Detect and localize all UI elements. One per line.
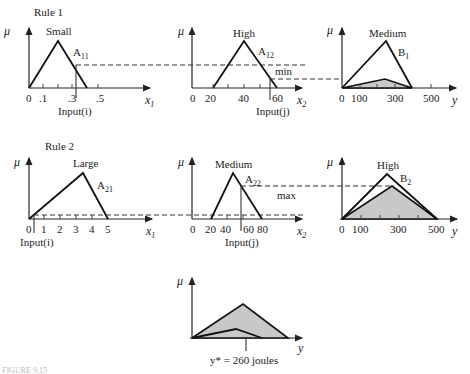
tick-label: 0 — [339, 223, 345, 235]
aggregated-area — [192, 304, 288, 338]
y-axis-label: y — [297, 341, 304, 355]
aggregated-output-panel: μ y y* = 260 joules — [176, 274, 304, 366]
mf-label-b1: B1 — [398, 46, 409, 61]
mu-label: μ — [13, 155, 20, 169]
tick-label: 20 — [205, 92, 217, 104]
tick-label: .1 — [39, 92, 47, 104]
tick-label: 60 — [272, 92, 284, 104]
rule1-consequent-panel: μ Medium B1 0 100 300 500 y — [326, 23, 458, 107]
y-axis-label: y — [451, 224, 458, 238]
mu-label: μ — [326, 155, 333, 169]
tick-label: 4 — [89, 223, 95, 235]
crisp-output-label: y* = 260 joules — [210, 354, 278, 366]
rule1-antecedent2-panel: μ High A12 0 20 40 60 Input(j) x2 min — [177, 24, 342, 118]
tick-label: 0 — [190, 92, 196, 104]
set-label-medium: Medium — [369, 27, 407, 39]
mu-label: μ — [177, 24, 184, 38]
set-label-small: Small — [46, 25, 72, 37]
tick-label: 0 — [339, 92, 345, 104]
x1-axis-label: x1 — [145, 224, 155, 240]
set-label-high: High — [233, 27, 256, 39]
mf-label-a21: A21 — [97, 179, 113, 194]
tick-label: 0 — [26, 92, 32, 104]
tick-label: 2 — [57, 223, 63, 235]
x2-axis-label: x2 — [296, 224, 306, 240]
mu-label: μ — [3, 24, 10, 38]
x2-axis-label: x2 — [296, 93, 306, 109]
tick-label: 300 — [390, 223, 407, 235]
tick-label: 300 — [387, 92, 404, 104]
fuzzy-inference-diagram: Rule 1 μ Small A11 0 .1 .3 .5 Input(i) x… — [0, 0, 470, 374]
mu-label: μ — [176, 274, 183, 288]
tick-label: 500 — [423, 92, 440, 104]
tick-label: 40 — [238, 92, 250, 104]
tick-label: 0 — [190, 223, 196, 235]
rule2-label: Rule 2 — [45, 140, 74, 152]
set-label-medium: Medium — [215, 158, 253, 170]
tick-label: 3 — [73, 223, 79, 235]
tick-label: 0 — [26, 223, 32, 235]
tick-label: 40 — [220, 223, 232, 235]
tick-label: 100 — [351, 92, 368, 104]
set-label-large: Large — [73, 157, 99, 169]
tick-label: .3 — [68, 92, 77, 104]
tick-label: 500 — [428, 223, 445, 235]
mf-label-a11: A11 — [73, 46, 89, 61]
tick-label: 100 — [352, 223, 369, 235]
rule2-consequent-panel: μ High B2 0 100 300 500 y — [326, 155, 458, 238]
tick-label: 60 — [243, 223, 255, 235]
input-i-label: Input(i) — [20, 236, 54, 249]
rule1-label: Rule 1 — [34, 6, 63, 18]
mf-label-a12: A12 — [258, 45, 274, 60]
set-label-high: High — [377, 159, 400, 171]
input-j-label: Input(j) — [225, 236, 259, 249]
mu-label: μ — [326, 23, 333, 37]
tick-label: 80 — [257, 223, 269, 235]
min-operator-label: min — [275, 65, 293, 77]
mf-label-b2: B2 — [400, 172, 411, 187]
mu-label: μ — [177, 155, 184, 169]
figure-caption: FIGURE 9.15 — [2, 366, 47, 374]
max-operator-label: max — [277, 189, 296, 201]
tick-label: .5 — [96, 92, 105, 104]
tick-label: 5 — [105, 223, 111, 235]
input-i-label: Input(i) — [58, 105, 92, 118]
tick-label: 20 — [205, 223, 217, 235]
y-axis-label: y — [451, 93, 458, 107]
input-j-label: Input(j) — [256, 105, 290, 118]
clipped-b2-area — [342, 186, 437, 219]
tick-label: 1 — [41, 223, 47, 235]
x1-axis-label: x1 — [144, 93, 154, 109]
